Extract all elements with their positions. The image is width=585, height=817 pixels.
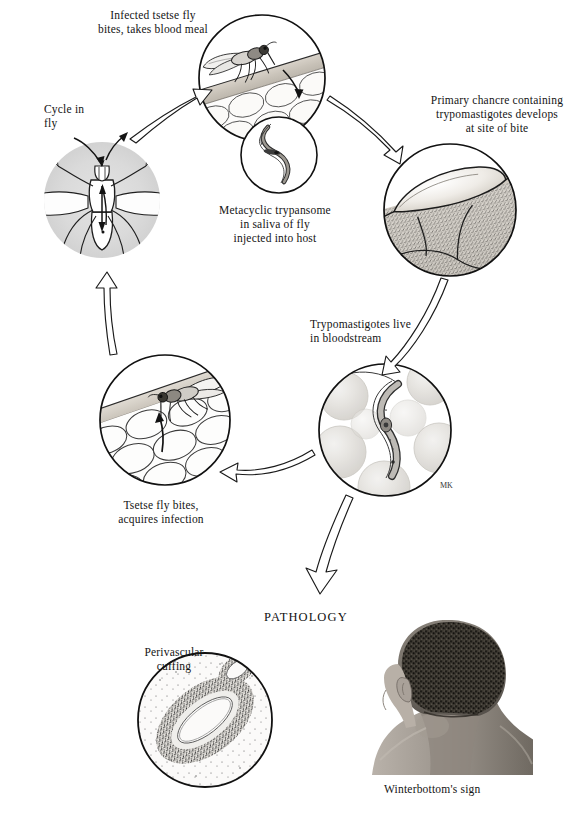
label-infected-fly-bite: Infected tsetse fly bites, takes blood m…: [68, 8, 238, 36]
label-trypomastigotes-bloodstream: Trypomastigotes live in bloodstream: [310, 317, 470, 345]
panel-metacyclic-trypanosome: [241, 117, 317, 193]
figure-canvas: MK: [0, 0, 585, 817]
pathology-heading: PATHOLOGY: [264, 610, 348, 625]
artist-initials: MK: [440, 481, 453, 490]
label-primary-chancre: Primary chancre containing trypomastigot…: [409, 93, 585, 135]
label-tsetse-fly-acquires: Tsetse fly bites, acquires infection: [86, 498, 236, 526]
panel-trypomastigotes-bloodstream: MK: [314, 359, 464, 513]
panel-fly-acquires-infection: [75, 355, 285, 512]
label-cycle-in-fly: Cycle in fly: [44, 102, 114, 130]
label-winterbottoms-sign: Winterbottom's sign: [384, 782, 544, 796]
fly-dorsal-glyph: [14, 158, 190, 256]
panel-winterbottoms-sign-photo: [358, 620, 534, 775]
cervical-lymph-node-swelling: [415, 714, 449, 738]
label-perivascular-cuffing: Perivascular cuffing: [128, 645, 220, 673]
panel-primary-chancre: [371, 144, 567, 326]
panel-cycle-in-fly: [14, 132, 190, 258]
label-metacyclic-trypanosome: Metacyclic trypansome in saliva of fly i…: [195, 203, 355, 245]
